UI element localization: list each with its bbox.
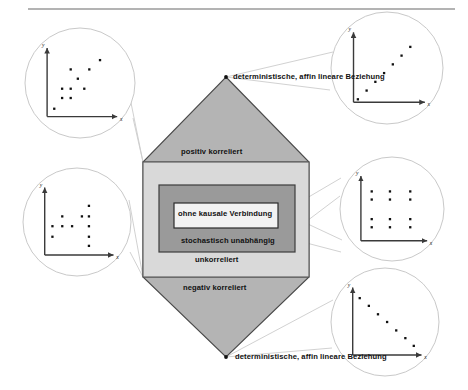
scatter-plot-top-right: yx bbox=[331, 12, 443, 124]
data-point bbox=[88, 215, 90, 217]
y-axis-label: y bbox=[347, 282, 351, 288]
data-point bbox=[88, 68, 90, 70]
data-point bbox=[371, 226, 373, 228]
data-point bbox=[51, 236, 53, 238]
data-point bbox=[409, 46, 411, 48]
data-point bbox=[357, 98, 359, 100]
data-point bbox=[88, 225, 90, 227]
label-negativ-korreliert: negativ korreliert bbox=[183, 284, 246, 292]
data-point bbox=[70, 88, 72, 90]
data-point bbox=[365, 89, 367, 91]
data-point bbox=[409, 226, 411, 228]
data-point bbox=[371, 190, 373, 192]
x-axis-label: x bbox=[429, 240, 433, 246]
data-point bbox=[392, 63, 394, 65]
data-point bbox=[71, 225, 73, 227]
label-apex-bottom-deterministic: deterministische, affin lineare Beziehun… bbox=[235, 353, 387, 361]
y-axis-label: y bbox=[348, 26, 352, 32]
data-point bbox=[395, 329, 397, 331]
data-point bbox=[389, 198, 391, 200]
data-point bbox=[61, 225, 63, 227]
data-point bbox=[386, 321, 388, 323]
apex-top-dot bbox=[224, 75, 228, 79]
scatter-plot-top-left: yx bbox=[25, 28, 135, 138]
data-point bbox=[83, 88, 85, 90]
data-point bbox=[51, 225, 53, 227]
data-point bbox=[368, 305, 370, 307]
x-axis-label: x bbox=[115, 254, 119, 260]
data-point bbox=[88, 236, 90, 238]
label-positiv-korreliert: positiv korreliert bbox=[181, 148, 242, 156]
data-point bbox=[400, 54, 402, 56]
scatter-plot-middle-left: yx bbox=[23, 168, 131, 276]
data-point bbox=[371, 218, 373, 220]
data-point bbox=[409, 190, 411, 192]
data-point bbox=[70, 68, 72, 70]
label-ohne-kausale-verbindung: ohne kausale Verbindung bbox=[178, 210, 272, 218]
data-point bbox=[377, 313, 379, 315]
data-point bbox=[404, 337, 406, 339]
diagram-svg: yxyxyxyxyx bbox=[0, 0, 468, 390]
data-point bbox=[371, 198, 373, 200]
data-point bbox=[77, 78, 79, 80]
data-point bbox=[70, 97, 72, 99]
x-axis-label: x bbox=[119, 116, 123, 122]
y-axis-label: y bbox=[355, 170, 359, 176]
diagram-canvas: yxyxyxyxyx positiv korreliert unkorrelie… bbox=[0, 0, 468, 390]
label-stochastisch-unabhaengig: stochastisch unabhängig bbox=[181, 237, 275, 245]
y-axis-label: y bbox=[39, 182, 43, 188]
data-point bbox=[53, 108, 55, 110]
apex-bottom-dot bbox=[224, 355, 228, 359]
x-axis-label: x bbox=[427, 101, 431, 107]
data-point bbox=[81, 215, 83, 217]
scatter-plot-middle-right: yx bbox=[340, 157, 444, 261]
data-point bbox=[409, 198, 411, 200]
data-point bbox=[61, 88, 63, 90]
x-axis-label: x bbox=[423, 354, 427, 360]
data-point bbox=[374, 81, 376, 83]
data-point bbox=[413, 345, 415, 347]
data-point bbox=[389, 226, 391, 228]
data-point bbox=[61, 97, 63, 99]
data-point bbox=[389, 190, 391, 192]
data-point bbox=[88, 245, 90, 247]
data-point bbox=[88, 205, 90, 207]
data-point bbox=[359, 297, 361, 299]
data-point bbox=[409, 218, 411, 220]
data-point bbox=[99, 59, 101, 61]
label-apex-top-deterministic: deterministische, affin lineare Beziehun… bbox=[233, 73, 385, 81]
label-unkorreliert: unkorreliert bbox=[195, 256, 238, 264]
data-point bbox=[389, 218, 391, 220]
data-point bbox=[61, 215, 63, 217]
y-axis-label: y bbox=[41, 42, 45, 48]
